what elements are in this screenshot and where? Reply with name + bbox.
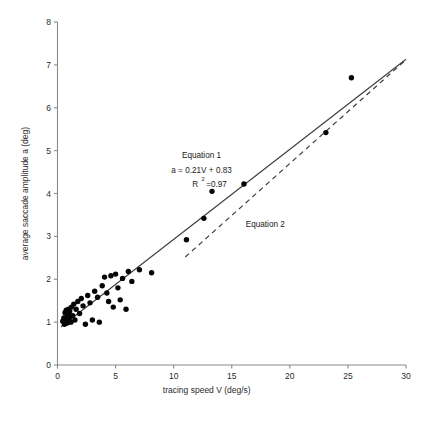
data-point (95, 295, 100, 300)
data-point (87, 300, 92, 305)
data-point (184, 237, 189, 242)
equation-1-r2-exp: 2 (202, 176, 205, 182)
equation-1-r2-value: =0.97 (206, 180, 227, 189)
equation-1-label: Equation 1 (182, 151, 222, 160)
x-axis-title: tracing speed V (deg/s) (163, 385, 251, 395)
y-tick-label: 2 (46, 274, 51, 284)
data-point (129, 279, 134, 284)
data-point (72, 317, 77, 322)
y-tick-label: 6 (46, 103, 51, 113)
data-point (79, 296, 84, 301)
data-point (92, 289, 97, 294)
y-tick-label: 4 (46, 189, 51, 199)
data-point (349, 75, 354, 80)
y-tick-label: 7 (46, 60, 51, 70)
data-point (113, 271, 118, 276)
data-point (149, 270, 154, 275)
chart-canvas: 012345678051015202530 Equation 1a = 0.21… (0, 0, 429, 421)
x-tick-label: 5 (113, 371, 118, 381)
data-point (137, 267, 142, 272)
data-point (120, 276, 125, 281)
y-tick-label: 8 (46, 17, 51, 27)
data-point (118, 297, 123, 302)
x-tick-label: 0 (55, 371, 60, 381)
y-tick-label: 0 (46, 360, 51, 370)
fit-line-solid (61, 59, 406, 326)
x-tick-label: 25 (343, 371, 353, 381)
data-point (106, 299, 111, 304)
data-point (126, 269, 131, 274)
data-point (108, 273, 113, 278)
data-point (77, 311, 82, 316)
x-tick-label: 15 (227, 371, 237, 381)
data-point (323, 130, 328, 135)
scatter-plot-figure: 012345678051015202530 Equation 1a = 0.21… (0, 0, 429, 421)
data-point (97, 319, 102, 324)
data-point (73, 307, 78, 312)
y-tick-label: 3 (46, 231, 51, 241)
data-point (80, 303, 85, 308)
data-point (241, 181, 246, 186)
chart-annotations-group: Equation 1a = 0.21V + 0.83R2=0.97Equatio… (171, 151, 285, 229)
data-point (115, 285, 120, 290)
equation-2-label: Equation 2 (246, 220, 286, 229)
data-point (102, 274, 107, 279)
data-point (111, 304, 116, 309)
fit-lines-group (61, 59, 406, 326)
data-point (85, 293, 90, 298)
data-points-group (60, 75, 354, 327)
y-tick-label: 1 (46, 317, 51, 327)
axes-group: 012345678051015202530 (46, 17, 411, 380)
data-point (90, 317, 95, 322)
data-point (83, 322, 88, 327)
data-point (201, 216, 206, 221)
x-tick-label: 30 (401, 371, 411, 381)
x-tick-label: 10 (169, 371, 179, 381)
data-point (104, 290, 109, 295)
y-tick-label: 5 (46, 146, 51, 156)
equation-1-formula: a = 0.21V + 0.83 (171, 166, 232, 175)
x-tick-label: 20 (285, 371, 295, 381)
equation-1-r2-base: R (192, 180, 198, 189)
data-point (123, 307, 128, 312)
y-axis-title: average saccade amplitude a (deg) (20, 127, 30, 260)
data-point (100, 283, 105, 288)
